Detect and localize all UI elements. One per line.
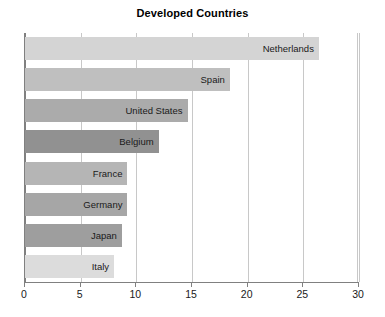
bar: Japan — [25, 224, 122, 247]
bar-label: Spain — [201, 74, 230, 85]
plot-area: NetherlandsSpainUnited StatesBelgiumFran… — [24, 33, 358, 282]
tick-mark — [247, 283, 248, 287]
x-tick-label: 20 — [241, 288, 253, 300]
bar-row: United States — [25, 99, 188, 122]
tick-mark — [191, 283, 192, 287]
tick-mark — [24, 283, 25, 287]
bar-label: United States — [125, 105, 187, 116]
x-tick-label: 5 — [77, 288, 83, 300]
bar: Netherlands — [25, 37, 319, 60]
bar-row: Japan — [25, 224, 122, 247]
tick-mark — [302, 283, 303, 287]
bar-chart: Developed Countries NetherlandsSpainUnit… — [0, 0, 385, 317]
tick-mark — [135, 283, 136, 287]
bar: France — [25, 162, 127, 185]
bar-row: France — [25, 162, 127, 185]
bar-series: NetherlandsSpainUnited StatesBelgiumFran… — [25, 33, 357, 282]
bar-label: Italy — [92, 261, 114, 272]
tick-mark — [358, 283, 359, 287]
bar: Belgium — [25, 130, 159, 153]
bar-row: Germany — [25, 193, 127, 216]
bar-row: Belgium — [25, 130, 159, 153]
bar-label: Germany — [83, 199, 127, 210]
bar-row: Spain — [25, 68, 230, 91]
x-axis-ticks: 051015202530 — [0, 283, 385, 295]
x-tick-label: 25 — [296, 288, 308, 300]
bar-label: Japan — [91, 230, 122, 241]
bar: Spain — [25, 68, 230, 91]
tick-mark — [80, 283, 81, 287]
bar-row: Italy — [25, 255, 114, 278]
bar: United States — [25, 99, 188, 122]
bar: Germany — [25, 193, 127, 216]
bar: Italy — [25, 255, 114, 278]
bar-label: Belgium — [119, 136, 158, 147]
x-tick-label: 30 — [352, 288, 364, 300]
x-tick-label: 15 — [185, 288, 197, 300]
chart-title: Developed Countries — [0, 7, 385, 19]
bar-label: Netherlands — [263, 43, 319, 54]
x-tick-label: 0 — [21, 288, 27, 300]
gridline — [359, 33, 360, 282]
bar-row: Netherlands — [25, 37, 319, 60]
x-tick-label: 10 — [129, 288, 141, 300]
bar-label: France — [93, 168, 128, 179]
